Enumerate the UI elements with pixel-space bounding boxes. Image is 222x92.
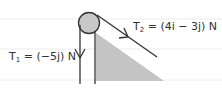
pulley-diagram: T2 = (4i − 3j) N T1 = (−5j) N [0,0,222,92]
incline-wedge [96,33,164,81]
t1-label: T1 = (−5j) N [8,50,76,64]
pulley [79,13,100,34]
t2-label: T2 = (4i − 3j) N [132,20,217,34]
